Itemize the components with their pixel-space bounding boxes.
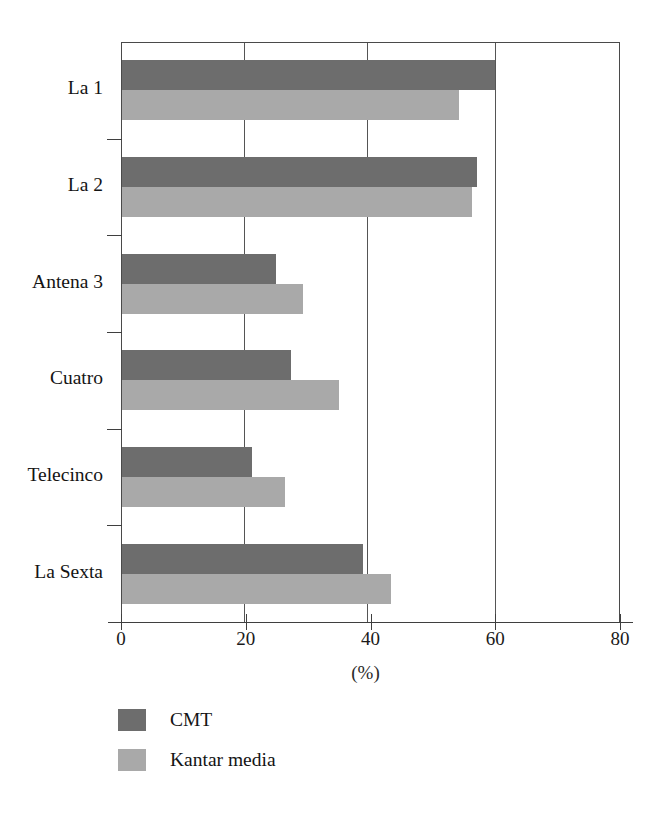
x-tick-label-80: 80 xyxy=(590,628,650,650)
page-edge xyxy=(0,806,655,812)
bar-la-2-cmt xyxy=(122,157,477,187)
category-tick-1 xyxy=(107,139,122,140)
x-axis-title-text: (%) xyxy=(351,662,379,683)
category-tick-2 xyxy=(107,235,122,236)
bar-la-1-cmt xyxy=(122,60,495,90)
category-tick-5 xyxy=(107,525,122,526)
category-label-text: Cuatro xyxy=(50,367,103,389)
gridline-40 xyxy=(367,43,368,622)
legend-label-kantar-media: Kantar media xyxy=(170,749,276,771)
x-tick-label-20: 20 xyxy=(216,628,276,650)
bar-la-sexta-kantar-media xyxy=(122,574,391,604)
x-tick-label-0: 0 xyxy=(91,628,151,650)
legend-item-cmt: CMT xyxy=(118,700,276,740)
category-tick-3 xyxy=(107,332,122,333)
plot-area xyxy=(121,42,620,622)
bar-la-1-kantar-media xyxy=(122,90,459,120)
category-tick-4 xyxy=(107,429,122,430)
bar-antena-3-cmt xyxy=(122,254,276,284)
x-tick-label-60: 60 xyxy=(465,628,525,650)
bar-la-sexta-cmt xyxy=(122,544,363,574)
category-label-text: La Sexta xyxy=(34,561,103,583)
gridline-20 xyxy=(244,43,245,622)
bar-cuatro-cmt xyxy=(122,350,291,380)
legend-label-cmt: CMT xyxy=(170,709,212,731)
category-label-text: La 1 xyxy=(68,77,103,99)
x-tick-label-40: 40 xyxy=(341,628,401,650)
bar-la-2-kantar-media xyxy=(122,187,472,217)
legend-item-kantar-media: Kantar media xyxy=(118,740,276,780)
category-label-text: La 2 xyxy=(68,174,103,196)
legend-swatch-cmt xyxy=(118,709,146,731)
bar-cuatro-kantar-media xyxy=(122,380,339,410)
gridline-60 xyxy=(495,43,496,622)
bar-telecinco-cmt xyxy=(122,447,252,477)
bar-telecinco-kantar-media xyxy=(122,477,285,507)
legend-swatch-kantar-media xyxy=(118,749,146,771)
category-label-text: Telecinco xyxy=(27,464,103,486)
category-label-text: Antena 3 xyxy=(32,271,103,293)
x-axis-title: (%) xyxy=(0,662,655,684)
chart-legend: CMT Kantar media xyxy=(118,700,276,780)
bar-antena-3-kantar-media xyxy=(122,284,303,314)
bar-chart-figure: La 1La 2Antena 3CuatroTelecincoLa Sexta … xyxy=(0,0,655,816)
